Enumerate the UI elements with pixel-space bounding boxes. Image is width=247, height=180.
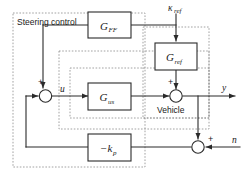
vehicle-label: Vehicle <box>157 105 185 115</box>
signal-label-u: u <box>60 84 65 94</box>
block-diagram: Steering control G FF G ref G us −k p κ … <box>0 0 247 180</box>
block-label-k-p: −k <box>100 142 113 154</box>
block-sub-k-p: p <box>112 149 117 157</box>
steering-control-label: Steering control <box>17 17 77 27</box>
block-label-g-ff: G <box>100 20 108 32</box>
block-sub-g-us: us <box>108 98 115 106</box>
block-label-g-us: G <box>100 91 108 103</box>
signal-sub-kappa-ref: ref <box>174 7 183 15</box>
sign-left-sum: + <box>38 77 43 87</box>
sign-right-sum: + <box>168 77 173 87</box>
block-label-g-ref: G <box>166 51 174 63</box>
signal-label-kappa-ref: κ <box>168 3 173 13</box>
diagram-text-layer: Steering control G FF G ref G us −k p κ … <box>0 0 247 180</box>
signal-label-y: y <box>221 83 227 93</box>
block-sub-g-ff: FF <box>108 26 118 34</box>
block-sub-g-ref: ref <box>175 58 184 66</box>
signal-label-n: n <box>232 135 237 145</box>
sign-noise-sum: + <box>208 134 213 144</box>
